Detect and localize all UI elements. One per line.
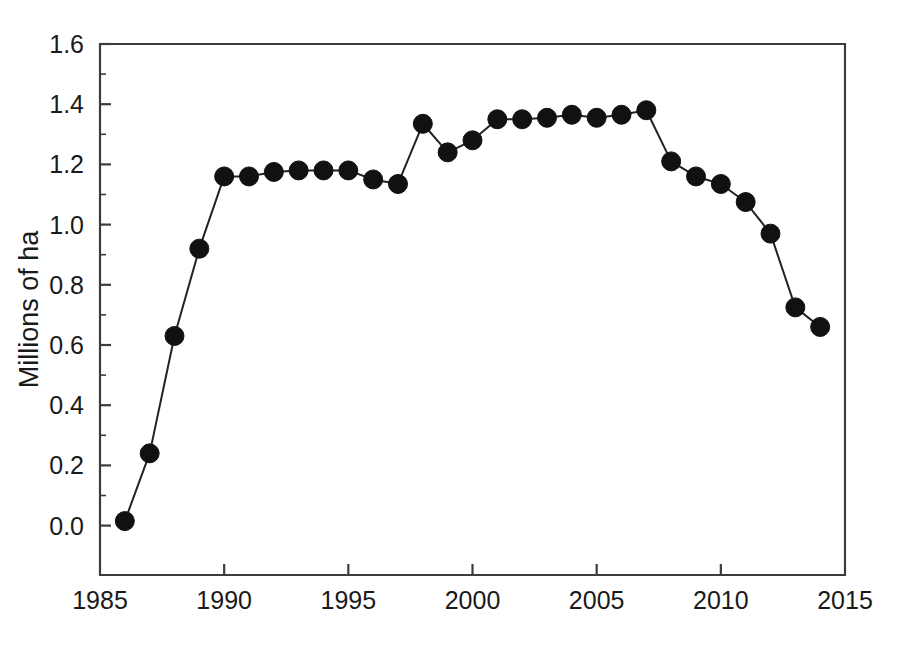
y-tick-label-1.2: 1.2 [49,150,84,178]
data-point-2011 [736,193,755,212]
x-axis-tick-labels: 1985199019952000200520102015 [72,586,873,614]
data-point-2003 [538,108,557,127]
data-point-1998 [413,114,432,133]
x-tick-label-2015: 2015 [817,586,873,614]
data-point-2014 [811,317,830,336]
x-tick-label-2005: 2005 [569,586,625,614]
data-point-1995 [339,161,358,180]
data-point-2001 [488,110,507,129]
y-axis-tick-labels: 0.00.20.40.60.81.01.21.41.6 [49,30,84,540]
data-series-millions-of-ha [115,101,829,531]
chart-axes [100,44,845,575]
x-tick-label-1995: 1995 [321,586,377,614]
y-tick-label-1.6: 1.6 [49,30,84,58]
y-tick-label-0.8: 0.8 [49,271,84,299]
y-tick-label-0.0: 0.0 [49,512,84,540]
data-point-2002 [513,110,532,129]
y-axis-title-text: Millions of ha [14,230,44,389]
data-point-1999 [438,143,457,162]
x-tick-label-2000: 2000 [445,586,501,614]
data-point-2010 [711,174,730,193]
data-point-1993 [289,161,308,180]
x-tick-label-2010: 2010 [693,586,749,614]
x-tick-label-1990: 1990 [196,586,252,614]
data-point-2012 [761,224,780,243]
data-point-1996 [364,170,383,189]
y-axis-title: Millions of ha [14,230,44,389]
data-point-2009 [687,167,706,186]
data-point-2013 [786,298,805,317]
data-point-1986 [115,512,134,531]
chart-tick-marks [100,44,721,575]
data-point-1992 [264,162,283,181]
data-point-2007 [637,101,656,120]
y-tick-label-0.4: 0.4 [49,391,84,419]
data-point-2006 [612,105,631,124]
data-point-2005 [587,108,606,127]
y-tick-label-0.6: 0.6 [49,331,84,359]
line-chart: 1985199019952000200520102015 0.00.20.40.… [0,0,899,646]
data-point-2000 [463,131,482,150]
data-point-1988 [165,326,184,345]
chart-figure: 1985199019952000200520102015 0.00.20.40.… [0,0,899,646]
data-point-2008 [662,152,681,171]
axis-frame [100,44,845,575]
data-point-1997 [389,174,408,193]
y-tick-label-1.0: 1.0 [49,211,84,239]
data-point-1990 [215,167,234,186]
data-point-1989 [190,239,209,258]
data-point-1994 [314,161,333,180]
x-tick-label-1985: 1985 [72,586,128,614]
y-tick-label-1.4: 1.4 [49,90,84,118]
data-point-2004 [562,105,581,124]
data-point-1987 [140,444,159,463]
data-point-1991 [240,167,259,186]
y-tick-label-0.2: 0.2 [49,451,84,479]
